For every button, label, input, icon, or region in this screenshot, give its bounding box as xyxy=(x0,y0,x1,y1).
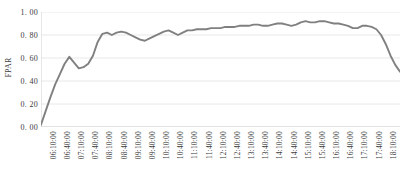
fpar-time-series-chart: FPAR 0. 000. 200. 400. 600. 801. 00 06:1… xyxy=(0,0,402,189)
x-axis-tick-label: 12:10:00 xyxy=(219,131,228,159)
x-axis-tick-label: 07:40:00 xyxy=(91,131,100,159)
y-axis-tick-labels: 0. 000. 200. 400. 600. 801. 00 xyxy=(14,0,40,135)
plot-svg xyxy=(41,12,400,127)
x-axis-tick-label: 17:10:00 xyxy=(360,131,369,159)
y-axis-tick-label: 0. 60 xyxy=(21,54,39,63)
x-axis-tick-label: 06:10:00 xyxy=(49,131,58,159)
fpar-data-line xyxy=(41,21,400,125)
x-axis-tick-label: 14:10:00 xyxy=(275,131,284,159)
x-axis-tick-label: 17:40:00 xyxy=(375,131,384,159)
x-axis-tick-label: 08:40:00 xyxy=(120,131,129,159)
y-axis-tick-label: 1. 00 xyxy=(21,8,39,17)
x-axis-tick-label: 13:10:00 xyxy=(247,131,256,159)
plot-area xyxy=(41,12,400,127)
y-axis-tick-label: 0. 00 xyxy=(21,123,39,132)
x-axis-tick-labels: 06:10:0006:40:0007:10:0007:40:0008:10:00… xyxy=(41,128,400,188)
x-axis-tick-label: 15:10:00 xyxy=(304,131,313,159)
y-axis-tick-label: 0. 20 xyxy=(21,100,39,109)
x-axis-tick-label: 12:40:00 xyxy=(233,131,242,159)
x-axis-tick-label: 11:10:00 xyxy=(190,131,199,159)
x-axis-tick-label: 06:40:00 xyxy=(63,131,72,159)
x-axis-tick-label: 11:40:00 xyxy=(205,131,214,159)
y-axis-tick-label: 0. 40 xyxy=(21,77,39,86)
y-axis-title-wrap: FPAR xyxy=(1,0,15,135)
x-axis-tick-label: 16:10:00 xyxy=(332,131,341,159)
x-axis-tick-label: 09:40:00 xyxy=(148,131,157,159)
x-axis-tick-label: 08:10:00 xyxy=(105,131,114,159)
gridlines xyxy=(41,12,400,127)
x-axis-tick-label: 10:10:00 xyxy=(162,131,171,159)
x-axis-tick-label: 18:10:00 xyxy=(389,131,398,159)
x-axis-tick-label: 09:10:00 xyxy=(134,131,143,159)
x-axis-tick-label: 07:10:00 xyxy=(77,131,86,159)
x-axis-tick-label: 14:40:00 xyxy=(290,131,299,159)
x-axis-tick-label: 10:40:00 xyxy=(176,131,185,159)
x-axis-tick-label: 16:40:00 xyxy=(346,131,355,159)
y-axis-title: FPAR xyxy=(4,57,13,77)
y-axis-tick-label: 0. 80 xyxy=(21,31,39,40)
x-axis-tick-label: 13:40:00 xyxy=(261,131,270,159)
x-axis-tick-label: 15:40:00 xyxy=(318,131,327,159)
